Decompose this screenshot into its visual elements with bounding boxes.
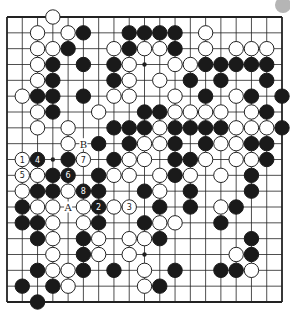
black-stone [214,216,228,230]
white-stone: 7 [76,152,90,166]
black-stone [46,105,60,119]
white-stone [122,168,136,182]
white-stone [214,168,228,182]
white-stone [122,89,136,103]
black-stone [30,295,44,309]
move-number-label: 8 [81,187,86,196]
white-stone [107,168,121,182]
white-stone [214,105,228,119]
black-stone [168,41,182,55]
black-stone [229,263,243,277]
white-stone [46,10,60,24]
white-stone [76,216,90,230]
black-stone [183,152,197,166]
point-mark-label: A [63,202,72,213]
move-number-label: 5 [20,171,25,180]
black-stone [214,121,228,135]
black-stone [91,184,105,198]
go-board: 14756823 BA [0,0,290,310]
black-stone [183,184,197,198]
white-stone [107,41,121,55]
white-stone [244,121,258,135]
black-stone [260,73,274,87]
black-stone [61,152,75,166]
black-stone [183,73,197,87]
black-stone [76,57,90,71]
white-stone [30,121,44,135]
black-stone [168,26,182,40]
black-stone: 2 [91,200,105,214]
point-mark-label: B [80,139,87,150]
white-stone [76,200,90,214]
black-stone [137,121,151,135]
white-stone [46,231,60,245]
white-stone [153,184,167,198]
white-stone [229,41,243,55]
black-stone [46,279,60,293]
black-stone [46,89,60,103]
black-stone [244,136,258,150]
black-stone [153,26,167,40]
black-stone [15,200,29,214]
white-stone [214,200,228,214]
black-stone [244,57,258,71]
black-stone [198,121,212,135]
white-stone [46,247,60,261]
black-stone [244,247,258,261]
black-stone [76,26,90,40]
black-stone [137,184,151,198]
white-stone [30,200,44,214]
black-stone [153,231,167,245]
black-stone [76,263,90,277]
white-stone [153,121,167,135]
move-number-label: 4 [35,156,40,165]
white-stone [260,41,274,55]
black-stone [76,247,90,261]
white-stone [15,89,29,103]
white-stone [46,41,60,55]
white-stone [183,168,197,182]
black-stone [183,121,197,135]
black-stone [275,89,289,103]
white-stone [137,41,151,55]
white-stone [198,26,212,40]
black-stone [122,136,136,150]
black-stone [260,105,274,119]
white-stone: 1 [15,152,29,166]
black-stone [153,279,167,293]
white-stone [61,26,75,40]
black-stone [107,263,121,277]
move-number-label: 3 [127,203,132,212]
black-stone [260,57,274,71]
black-stone [168,168,182,182]
black-stone [168,136,182,150]
move-number-label: 1 [20,156,25,165]
white-stone [153,41,167,55]
white-stone [229,121,243,135]
black-stone [244,168,258,182]
black-stone [168,152,182,166]
white-stone [107,200,121,214]
white-stone [61,279,75,293]
black-stone: 8 [76,184,90,198]
black-stone [46,73,60,87]
white-stone [137,136,151,150]
white-stone [153,216,167,230]
white-stone [229,152,243,166]
black-stone [168,263,182,277]
white-stone [183,105,197,119]
star-point-icon [51,157,55,161]
white-stone [244,41,258,55]
white-stone [30,168,44,182]
white-stone [30,57,44,71]
white-stone [91,105,105,119]
black-stone [61,41,75,55]
black-stone [153,200,167,214]
white-stone [198,105,212,119]
star-point-icon [142,252,146,256]
white-stone [30,105,44,119]
white-stone [46,200,60,214]
black-stone [260,136,274,150]
white-stone [30,26,44,40]
black-stone [153,105,167,119]
